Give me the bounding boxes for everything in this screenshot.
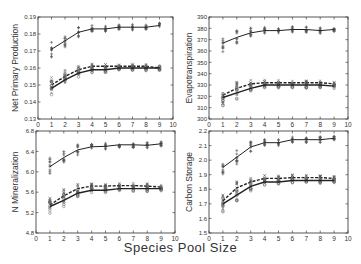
x-tick-label: 9: [158, 121, 162, 128]
x-tick-label: 1: [221, 121, 225, 128]
y-tick-label: 1.6: [199, 216, 208, 222]
y-tick-label: 330: [197, 82, 208, 88]
x-tick-label: 2: [63, 121, 67, 128]
y-tick-label: 5.2: [26, 210, 35, 216]
panel-carbon-storage: 0123456789101.51.61.71.81.92.02.12.2Carb…: [184, 128, 352, 242]
x-tick-label: 4: [263, 121, 267, 128]
y-tick-label: 1.5: [199, 230, 208, 236]
y-tick-label: 0.19: [24, 14, 36, 20]
y-tick-label: 0.15: [24, 82, 36, 88]
y-tick-label: 2.0: [199, 157, 208, 163]
panel-net-primary-production: 0123456789100.130.140.150.160.170.180.19…: [10, 14, 177, 128]
x-tick-label: 5: [277, 121, 281, 128]
series-line-upper: [223, 138, 334, 167]
x-tick-label: 7: [304, 121, 308, 128]
y-tick-label: 4.8: [26, 230, 35, 236]
y-tick-label: 6.4: [26, 149, 35, 155]
y-axis-label: Net Primary Production: [10, 24, 20, 112]
x-tick-label: 0: [207, 121, 211, 128]
y-tick-label: 0.13: [24, 116, 36, 122]
y-tick-label: 370: [197, 37, 208, 43]
y-tick-label: 310: [197, 105, 208, 111]
y-tick-label: 2.2: [199, 128, 208, 134]
x-tick-label: 10: [344, 121, 352, 128]
y-tick-label: 320: [197, 94, 208, 100]
x-tick-label: 8: [144, 121, 148, 128]
y-tick-label: 350: [197, 60, 208, 66]
y-tick-label: 360: [197, 48, 208, 54]
y-tick-label: 340: [197, 71, 208, 77]
y-tick-label: 0.18: [24, 31, 36, 37]
y-axis-label: N Mineralization: [10, 151, 20, 212]
x-tick-label: 2: [235, 121, 239, 128]
x-tick-label: 3: [77, 121, 81, 128]
x-tick-label: 3: [249, 121, 253, 128]
y-axis-label: Carbon Storage: [184, 152, 194, 212]
x-tick-label: 0: [36, 121, 40, 128]
x-tick-label: 9: [332, 121, 336, 128]
y-tick-label: 0.14: [24, 99, 36, 105]
chart-canvas: 0123456789100.130.140.150.160.170.180.19…: [0, 0, 361, 264]
panel-n-mineralization: 0123456789104.85.25.66.06.46.8N Minerali…: [10, 128, 179, 242]
y-tick-label: 380: [197, 26, 208, 32]
x-tick-label: 7: [131, 121, 135, 128]
x-tick-label: 1: [50, 121, 54, 128]
x-tick-label: 8: [318, 121, 322, 128]
y-tick-label: 2.1: [199, 143, 208, 149]
y-tick-label: 0.17: [24, 48, 36, 54]
x-tick-label: 4: [90, 121, 94, 128]
x-tick-label: 6: [117, 121, 121, 128]
shared-x-axis-label: Species Pool Size: [0, 240, 361, 255]
y-tick-label: 6.0: [26, 169, 35, 175]
x-tick-label: 10: [169, 121, 177, 128]
x-tick-label: 5: [104, 121, 108, 128]
series-line-lower: [223, 181, 334, 204]
y-axis-label: Evapotranspiration: [184, 32, 194, 103]
series-line-upper: [52, 26, 160, 50]
panel-evapotranspiration: 0123456789103003103203303403503603703803…: [184, 14, 352, 128]
x-tick-label: 6: [291, 121, 295, 128]
y-tick-label: 6.8: [26, 128, 35, 134]
y-tick-label: 5.6: [26, 189, 35, 195]
y-tick-label: 1.7: [199, 201, 208, 207]
y-tick-label: 1.9: [199, 172, 208, 178]
y-tick-label: 300: [197, 116, 208, 122]
y-tick-label: 0.16: [24, 65, 36, 71]
y-tick-label: 1.8: [199, 186, 208, 192]
figure: 0123456789100.130.140.150.160.170.180.19…: [0, 0, 361, 264]
y-tick-label: 390: [197, 14, 208, 20]
